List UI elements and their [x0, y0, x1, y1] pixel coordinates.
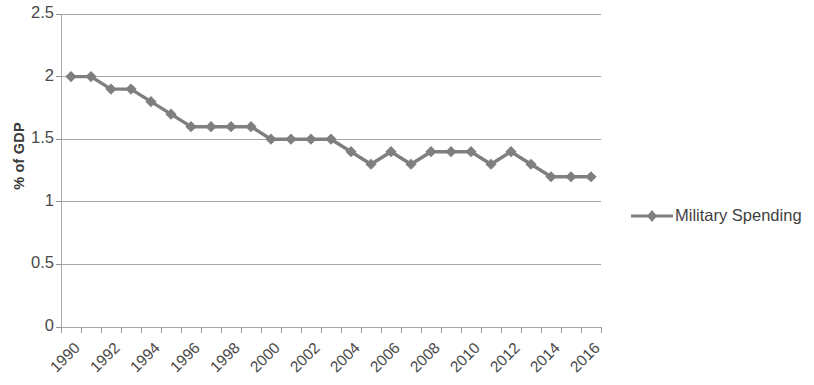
- data-point-marker: [65, 71, 76, 82]
- y-tick-label: 1.5: [8, 128, 54, 147]
- data-point-marker: [565, 171, 576, 182]
- military-spending-line-chart: % of GDP Military Spending 00.511.522.51…: [0, 0, 814, 385]
- legend-label-military-spending: Military Spending: [675, 206, 802, 225]
- data-point-marker: [285, 134, 296, 145]
- data-point-marker: [445, 146, 456, 157]
- y-tick-label: 2: [8, 66, 54, 85]
- plot-area: [0, 0, 814, 385]
- y-tick-label: 1: [8, 191, 54, 210]
- data-point-marker: [225, 121, 236, 132]
- series-line-0: [71, 77, 591, 177]
- data-point-marker: [305, 134, 316, 145]
- y-tick-label: 2.5: [8, 3, 54, 22]
- y-tick-label: 0: [8, 316, 54, 335]
- legend-marker-icon: [631, 208, 673, 224]
- data-point-marker: [205, 121, 216, 132]
- data-point-marker: [585, 171, 596, 182]
- chart-legend: Military Spending: [631, 206, 802, 225]
- y-tick-label: 0.5: [8, 253, 54, 272]
